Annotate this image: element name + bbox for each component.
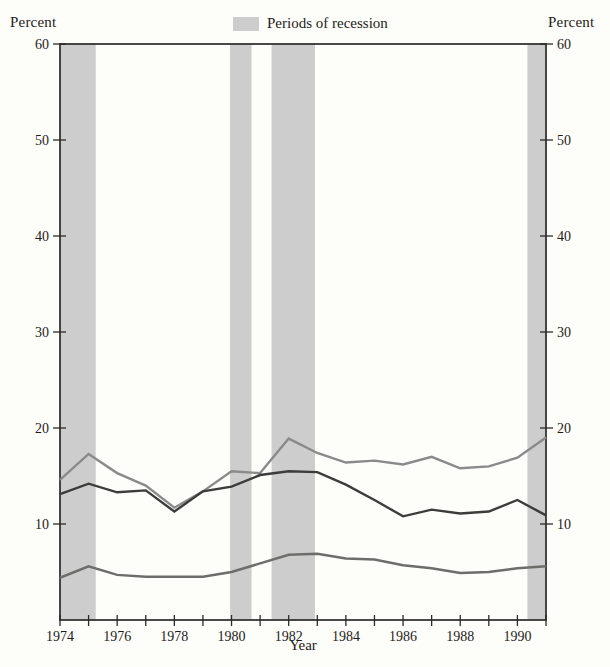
x-tick-label: 1980 xyxy=(218,629,246,644)
y-tick-label-left: 60 xyxy=(35,37,49,52)
recession-band xyxy=(230,44,251,620)
recession-band xyxy=(272,44,315,620)
y-tick-label-left: 30 xyxy=(35,325,49,340)
line-chart: 1010202030304040505060601974197619781980… xyxy=(0,0,610,667)
recession-legend: Periods of recession xyxy=(233,15,388,32)
y-tick-label-right: 30 xyxy=(557,325,571,340)
x-tick-label: 1978 xyxy=(160,629,188,644)
x-tick-label: 1974 xyxy=(46,629,74,644)
y-tick-label-left: 50 xyxy=(35,133,49,148)
y-tick-label-right: 10 xyxy=(557,517,571,532)
x-tick-label: 1990 xyxy=(503,629,531,644)
y-tick-label-right: 50 xyxy=(557,133,571,148)
left-axis-title: Percent xyxy=(10,14,56,31)
y-tick-label-left: 40 xyxy=(35,229,49,244)
x-tick-label: 1988 xyxy=(446,629,474,644)
y-tick-label-left: 20 xyxy=(35,421,49,436)
x-axis-title: Year xyxy=(243,637,363,654)
x-tick-label: 1986 xyxy=(389,629,417,644)
y-tick-label-right: 60 xyxy=(557,37,571,52)
y-tick-label-right: 40 xyxy=(557,229,571,244)
x-tick-label: 1976 xyxy=(103,629,131,644)
y-tick-label-left: 10 xyxy=(35,517,49,532)
y-tick-label-right: 20 xyxy=(557,421,571,436)
chart-page: Percent Periods of recession Percent 101… xyxy=(0,0,610,667)
right-axis-title: Percent xyxy=(548,14,594,31)
recession-swatch-icon xyxy=(233,17,259,31)
recession-legend-label: Periods of recession xyxy=(267,15,388,32)
